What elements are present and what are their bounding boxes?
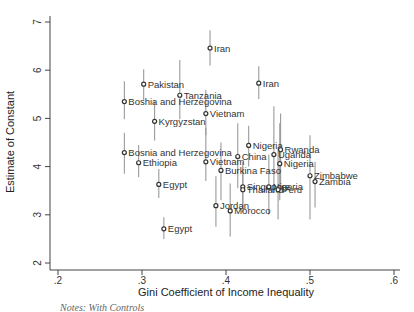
point-label: Kyrgyzstan [159, 116, 206, 127]
data-point [208, 46, 212, 50]
data-point [313, 180, 317, 184]
x-tick-label: .4 [222, 275, 231, 286]
point-label: Ethiopia [143, 157, 178, 168]
point-label: Boshia and Herzegovina [128, 96, 232, 107]
data-point [219, 168, 223, 172]
data-point [272, 153, 276, 157]
data-point [308, 174, 312, 178]
data-point [257, 81, 261, 85]
x-tick-label: .2 [54, 275, 63, 286]
x-tick-label: .3 [138, 275, 147, 286]
data-point [241, 188, 245, 192]
data-point [162, 227, 166, 231]
x-tick-label: .5 [306, 275, 315, 286]
scatter-chart: 234567.2.3.4.5.6 IranIranPakistanTanzani… [0, 0, 414, 312]
data-point [157, 182, 161, 186]
y-tick-label: 4 [32, 163, 43, 169]
y-tick-label: 7 [32, 19, 43, 25]
data-point [204, 160, 208, 164]
data-point [122, 100, 126, 104]
chart-caption: Notes: With Controls [60, 302, 144, 312]
point-label: Burkina Faso [225, 165, 281, 176]
point-label: Iran [214, 43, 230, 54]
data-point [122, 151, 126, 155]
y-axis-title: Estimate of Constant [4, 91, 16, 193]
point-label: Pakistan [148, 79, 184, 90]
point-label: Egypt [168, 223, 193, 234]
y-tick-label: 3 [32, 212, 43, 218]
data-point [276, 188, 280, 192]
point-label: Nigeria [284, 158, 315, 169]
data-point [247, 143, 251, 147]
point-label: China [242, 151, 268, 162]
point-label: Iran [263, 78, 279, 89]
y-tick-label: 6 [32, 67, 43, 73]
y-tick-label: 2 [32, 260, 43, 266]
x-axis-title: Gini Coefficient of Income Inequality [138, 286, 314, 298]
data-point [153, 119, 157, 123]
x-tick-label: .6 [390, 275, 399, 286]
point-label: Zambia [319, 176, 351, 187]
data-points: IranIranPakistanTanzaniaBoshia and Herze… [122, 43, 357, 235]
point-label: Peru [282, 184, 302, 195]
data-point [137, 161, 141, 165]
point-label: Vietnam [210, 108, 245, 119]
point-label: Morocco [234, 205, 270, 216]
data-point [228, 209, 232, 213]
data-point [214, 204, 218, 208]
data-point [142, 82, 146, 86]
y-tick-label: 5 [32, 115, 43, 121]
point-label: Egypt [163, 179, 188, 190]
